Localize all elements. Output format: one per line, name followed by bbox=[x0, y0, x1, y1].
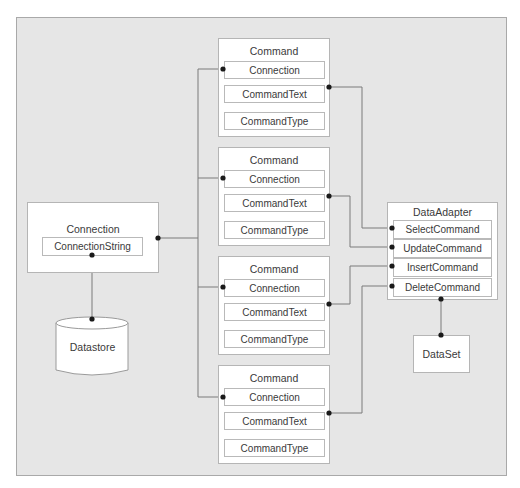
command4-connection-dot-icon bbox=[220, 394, 225, 399]
select-command-dot-icon bbox=[389, 225, 394, 230]
connection-string-port-dot-icon bbox=[89, 252, 94, 257]
update-command-dot-icon bbox=[389, 244, 394, 249]
command3-text-dot-icon bbox=[326, 301, 331, 306]
command2-text-dot-icon bbox=[326, 193, 331, 198]
data-adapter-port-dot-icon bbox=[438, 296, 443, 301]
connection-port-dot-icon bbox=[155, 235, 160, 240]
command1-text-dot-icon bbox=[326, 84, 331, 89]
command2-connection-dot-icon bbox=[220, 175, 225, 180]
datastore-port-dot-icon bbox=[89, 316, 94, 321]
delete-command-dot-icon bbox=[389, 283, 394, 288]
dataset-port-dot-icon bbox=[438, 332, 443, 337]
command3-connection-dot-icon bbox=[220, 284, 225, 289]
command1-connection-dot-icon bbox=[220, 66, 225, 71]
command4-text-dot-icon bbox=[326, 410, 331, 415]
connector-dots bbox=[0, 0, 520, 488]
insert-command-dot-icon bbox=[389, 263, 394, 268]
